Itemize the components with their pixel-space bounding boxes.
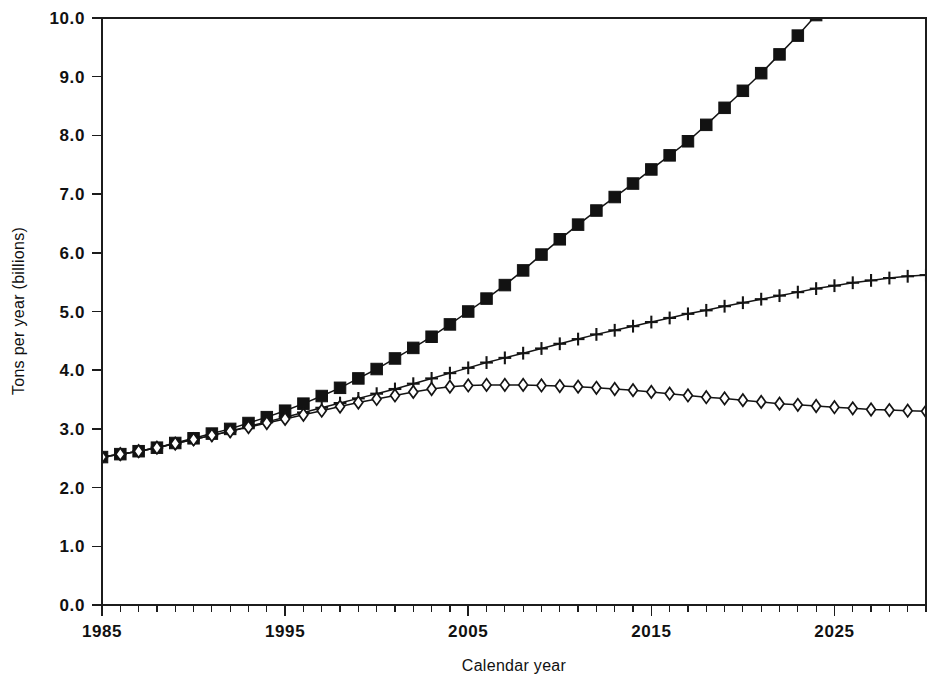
data-point-diamond (848, 402, 857, 414)
data-point-diamond (885, 404, 894, 416)
data-point-diamond (812, 400, 821, 412)
data-point-diamond (793, 399, 802, 411)
data-point-diamond (775, 397, 784, 409)
data-point-square (536, 249, 548, 261)
chart-figure: 0.01.02.03.04.05.06.07.08.09.010.0 19851… (0, 0, 947, 688)
data-point-plus (480, 356, 493, 369)
series-mid-growth-scenario (96, 269, 933, 464)
data-point-diamond (299, 409, 308, 421)
data-point-square (664, 150, 676, 162)
data-point-square (792, 30, 804, 42)
data-point-square (554, 234, 566, 246)
y-tick-label: 10.0 (50, 9, 86, 28)
data-point-square (701, 119, 713, 131)
data-point-square (371, 363, 383, 375)
data-point-square (499, 279, 511, 291)
data-point-plus (810, 282, 823, 295)
y-tick-label: 3.0 (60, 420, 85, 439)
data-point-diamond (409, 386, 418, 398)
x-tick-label: 2025 (814, 622, 854, 641)
x-tick-label: 1995 (265, 622, 305, 641)
series-low-growth-scenario (98, 379, 931, 464)
data-point-plus (865, 274, 878, 287)
y-axis-label: Tons per year (billions) (10, 227, 27, 395)
data-point-square (517, 265, 529, 277)
y-tick-label: 9.0 (60, 68, 85, 87)
data-point-plus (736, 296, 749, 309)
data-point-square (737, 85, 749, 97)
data-point-plus (682, 307, 695, 320)
x-axis-ticks: 19851995200520152025 (82, 605, 926, 641)
y-tick-label: 5.0 (60, 303, 85, 322)
x-tick-label: 2015 (631, 622, 671, 641)
data-point-diamond (665, 387, 674, 399)
data-point-plus (444, 367, 457, 380)
data-point-plus (700, 304, 713, 317)
y-tick-label: 2.0 (60, 479, 85, 498)
data-point-diamond (702, 391, 711, 403)
data-point-diamond (445, 380, 454, 392)
data-point-plus (535, 342, 548, 355)
data-point-square (627, 178, 639, 190)
y-axis-ticks: 0.01.02.03.04.05.06.07.08.09.010.0 (50, 9, 103, 615)
data-point-diamond (427, 383, 436, 395)
data-point-plus (627, 320, 640, 333)
y-tick-label: 4.0 (60, 361, 85, 380)
data-point-plus (846, 276, 859, 289)
data-point-plus (663, 312, 676, 325)
data-point-plus (498, 351, 511, 364)
data-point-plus (462, 361, 475, 374)
data-point-diamond (482, 379, 491, 391)
data-point-diamond (519, 379, 528, 391)
data-point-diamond (757, 396, 766, 408)
data-point-diamond (867, 403, 876, 415)
data-point-square (389, 353, 401, 365)
data-point-plus (791, 286, 804, 299)
data-point-square (444, 319, 456, 331)
data-point-square (316, 390, 328, 402)
plot-area (96, 0, 933, 463)
data-point-plus (590, 328, 603, 341)
data-point-diamond (738, 394, 747, 406)
data-point-diamond (574, 380, 583, 392)
data-point-square (426, 331, 438, 343)
data-point-plus (718, 300, 731, 313)
y-tick-label: 7.0 (60, 185, 85, 204)
x-tick-label: 2005 (448, 622, 488, 641)
data-point-square (481, 293, 493, 305)
y-tick-label: 1.0 (60, 537, 85, 556)
y-tick-label: 8.0 (60, 126, 85, 145)
data-point-plus (572, 333, 585, 346)
series-line-low-growth-scenario (102, 385, 926, 457)
data-point-square (810, 9, 822, 20)
data-point-plus (553, 337, 566, 350)
data-point-plus (517, 347, 530, 360)
data-point-diamond (830, 401, 839, 413)
data-point-square (591, 205, 603, 217)
data-point-plus (608, 324, 621, 337)
data-point-diamond (537, 379, 546, 391)
data-point-plus (883, 272, 896, 285)
data-point-diamond (647, 386, 656, 398)
data-point-square (755, 67, 767, 79)
data-point-square (646, 164, 658, 176)
data-point-diamond (555, 380, 564, 392)
x-axis-label: Calendar year (462, 657, 567, 674)
data-point-diamond (903, 405, 912, 417)
data-point-plus (901, 270, 914, 283)
data-point-diamond (610, 383, 619, 395)
data-point-square (353, 373, 365, 385)
data-point-square (719, 102, 731, 114)
data-point-diamond (391, 389, 400, 401)
data-point-diamond (592, 382, 601, 394)
data-point-square (572, 219, 584, 231)
y-tick-label: 0.0 (60, 596, 85, 615)
line-chart: 0.01.02.03.04.05.06.07.08.09.010.0 19851… (0, 0, 947, 688)
data-point-square (462, 306, 474, 318)
data-point-diamond (720, 392, 729, 404)
series-line-high-growth-scenario (102, 0, 926, 457)
data-point-diamond (629, 384, 638, 396)
data-point-diamond (500, 379, 509, 391)
data-point-plus (773, 289, 786, 302)
data-point-diamond (464, 379, 473, 391)
